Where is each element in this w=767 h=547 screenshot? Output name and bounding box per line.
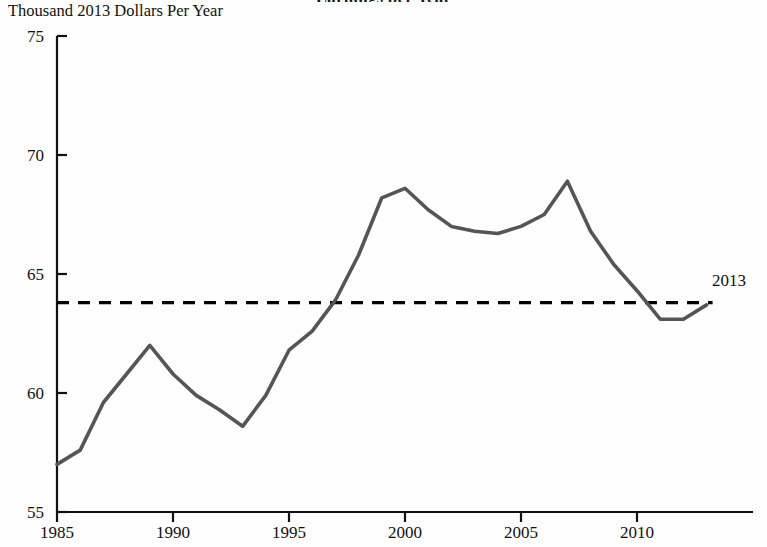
y-tick-label-55: 55 [2, 504, 44, 521]
x-tick-label-1985: 1985 [25, 524, 89, 541]
chart-plot-area [0, 0, 767, 547]
chart-page: Earnings per Year Thousand 2013 Dollars … [0, 0, 767, 547]
x-tick-label-1990: 1990 [141, 524, 205, 541]
x-tick-label-2010: 2010 [605, 524, 669, 541]
x-axis-ticks [57, 512, 637, 522]
data-series-line [57, 181, 707, 464]
y-axis-ticks [57, 36, 67, 512]
x-tick-label-1995: 1995 [257, 524, 321, 541]
y-tick-label-70: 70 [2, 147, 44, 164]
x-tick-label-2000: 2000 [373, 524, 437, 541]
y-tick-label-60: 60 [2, 385, 44, 402]
reference-line-label: 2013 [712, 272, 746, 289]
y-tick-label-65: 65 [2, 266, 44, 283]
y-tick-label-75: 75 [2, 28, 44, 45]
x-tick-label-2005: 2005 [489, 524, 553, 541]
